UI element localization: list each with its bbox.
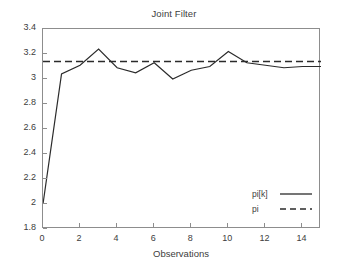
x-tick-mark bbox=[42, 223, 43, 227]
legend-item-pik: pi[k] bbox=[252, 186, 318, 201]
x-tick-label: 6 bbox=[141, 233, 165, 243]
y-tick-mark bbox=[43, 53, 47, 54]
legend-swatch-dashed bbox=[278, 204, 318, 214]
x-tick-label: 12 bbox=[252, 233, 276, 243]
x-tick-label: 8 bbox=[178, 233, 202, 243]
x-tick-mark bbox=[301, 223, 302, 227]
x-tick-mark bbox=[153, 223, 154, 227]
y-tick-label: 2 bbox=[4, 197, 36, 207]
x-axis-label: Observations bbox=[42, 248, 320, 259]
y-tick-mark bbox=[43, 178, 47, 179]
chart-title: Joint Filter bbox=[0, 8, 348, 19]
chart-legend: pi[k] pi bbox=[252, 186, 318, 216]
x-tick-mark bbox=[190, 223, 191, 227]
x-tick-label: 10 bbox=[215, 233, 239, 243]
x-tick-label: 2 bbox=[67, 233, 91, 243]
legend-item-pi: pi bbox=[252, 201, 318, 216]
y-tick-label: 1.8 bbox=[4, 222, 36, 232]
y-tick-label: 3.4 bbox=[4, 22, 36, 32]
y-tick-mark bbox=[43, 128, 47, 129]
y-tick-mark bbox=[43, 203, 47, 204]
y-tick-mark bbox=[43, 153, 47, 154]
x-tick-label: 4 bbox=[104, 233, 128, 243]
x-tick-mark bbox=[227, 223, 228, 227]
x-tick-mark bbox=[264, 223, 265, 227]
y-tick-label: 2.4 bbox=[4, 147, 36, 157]
chart-figure: Joint Filter 1.822.22.42.62.833.23.4 024… bbox=[0, 0, 348, 270]
legend-label-pik: pi[k] bbox=[252, 189, 278, 199]
x-tick-mark bbox=[116, 223, 117, 227]
y-tick-label: 2.6 bbox=[4, 122, 36, 132]
legend-swatch-solid bbox=[278, 189, 318, 199]
y-tick-mark bbox=[43, 228, 47, 229]
legend-label-pi: pi bbox=[252, 204, 278, 214]
x-tick-label: 14 bbox=[289, 233, 313, 243]
y-tick-mark bbox=[43, 103, 47, 104]
y-tick-label: 3 bbox=[4, 72, 36, 82]
y-tick-mark bbox=[43, 78, 47, 79]
x-tick-mark bbox=[79, 223, 80, 227]
y-tick-mark bbox=[43, 28, 47, 29]
x-tick-label: 0 bbox=[30, 233, 54, 243]
series-pik-line bbox=[43, 49, 321, 204]
y-tick-label: 2.2 bbox=[4, 172, 36, 182]
y-tick-label: 2.8 bbox=[4, 97, 36, 107]
y-tick-label: 3.2 bbox=[4, 47, 36, 57]
